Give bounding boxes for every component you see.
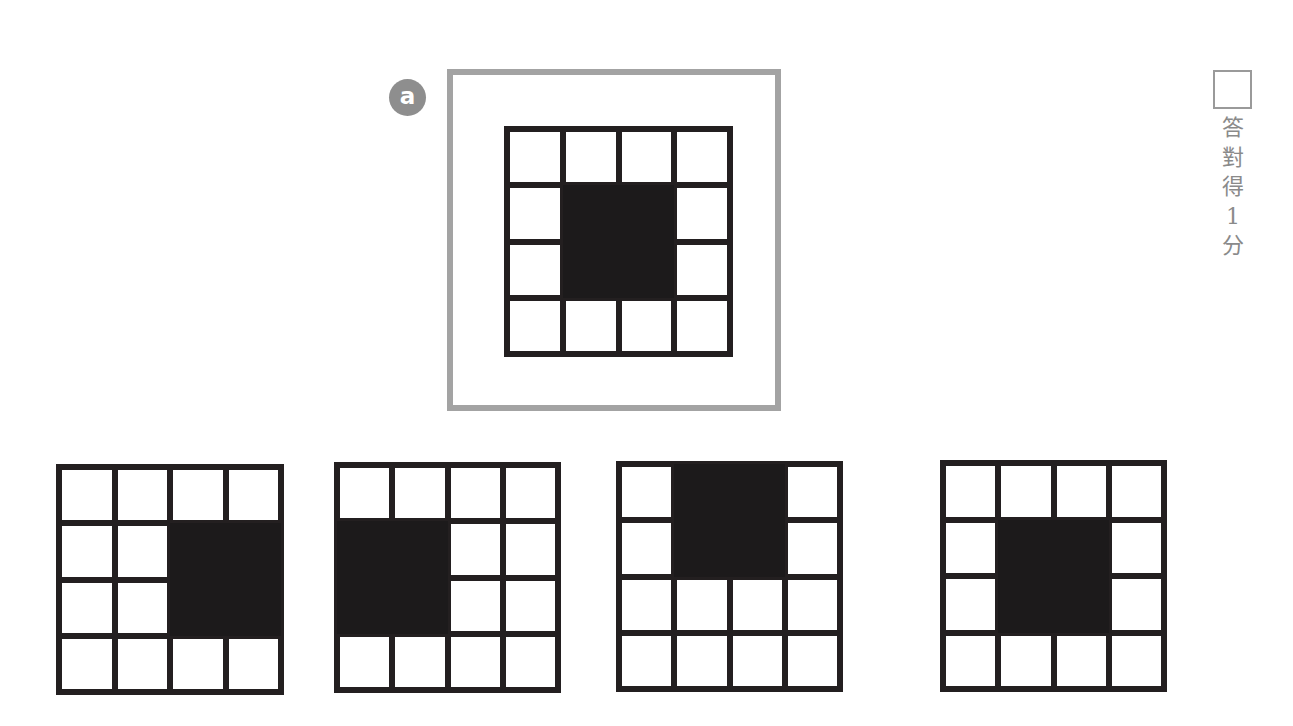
grid-cell-empty (451, 468, 500, 518)
grid-cell-empty (229, 639, 279, 689)
grid-cell-empty (622, 301, 672, 351)
grid-cell-filled (340, 581, 389, 631)
grid-cell-empty (946, 636, 995, 687)
grid-cell-empty (622, 523, 671, 573)
option-2-grid[interactable] (334, 462, 561, 693)
score-char-5: 分 (1222, 231, 1244, 261)
grid-cell-empty (622, 580, 671, 630)
grid-cell-filled (173, 583, 223, 633)
grid-cell-empty (1112, 523, 1161, 574)
grid-cell-filled (1057, 523, 1106, 574)
grid-cell-filled (622, 245, 672, 295)
grid-cell-empty (677, 245, 727, 295)
grid-cell-empty (677, 636, 726, 686)
grid-cell-empty (677, 580, 726, 630)
score-char-2: 對 (1222, 143, 1244, 173)
grid-cell-empty (506, 581, 555, 631)
grid-cell-empty (510, 188, 560, 238)
grid-cell-filled (677, 523, 726, 573)
grid-cell-empty (118, 583, 168, 633)
option-4-grid[interactable] (940, 460, 1167, 692)
grid-cell-filled (566, 245, 616, 295)
grid-cell-empty (340, 637, 389, 687)
grid-cell-empty (510, 301, 560, 351)
grid-cell-empty (622, 467, 671, 517)
grid-cell-filled (1001, 579, 1050, 630)
grid-cell-empty (946, 523, 995, 574)
grid-cell-empty (566, 132, 616, 182)
grid-cell-empty (788, 636, 837, 686)
score-char-4: 1 (1226, 202, 1240, 232)
grid-cell-empty (506, 524, 555, 574)
grid-cell-empty (506, 637, 555, 687)
grid-cell-empty (451, 524, 500, 574)
grid-cell-empty (622, 132, 672, 182)
grid-cell-empty (118, 526, 168, 576)
grid-cell-empty (1112, 579, 1161, 630)
grid-cell-filled (566, 188, 616, 238)
grid-cell-empty (677, 188, 727, 238)
grid-cell-filled (622, 188, 672, 238)
grid-cell-filled (1057, 579, 1106, 630)
grid-cell-empty (1112, 466, 1161, 517)
answer-checkbox[interactable] (1213, 70, 1252, 109)
grid-cell-filled (733, 467, 782, 517)
grid-cell-empty (1057, 636, 1106, 687)
score-char-1: 答 (1222, 113, 1244, 143)
grid-cell-empty (1057, 466, 1106, 517)
grid-cell-empty (677, 132, 727, 182)
grid-cell-empty (677, 301, 727, 351)
grid-cell-empty (1001, 636, 1050, 687)
stem-grid (504, 126, 733, 357)
grid-cell-filled (229, 526, 279, 576)
option-1-grid[interactable] (56, 464, 284, 695)
grid-cell-empty (340, 468, 389, 518)
grid-cell-empty (451, 581, 500, 631)
grid-cell-empty (395, 468, 444, 518)
grid-cell-empty (788, 467, 837, 517)
option-3-grid[interactable] (616, 461, 843, 692)
grid-cell-filled (395, 524, 444, 574)
grid-cell-empty (118, 470, 168, 520)
grid-cell-empty (733, 636, 782, 686)
grid-cell-empty (62, 639, 112, 689)
grid-cell-filled (229, 583, 279, 633)
grid-cell-filled (340, 524, 389, 574)
score-char-3: 得 (1222, 172, 1244, 202)
grid-cell-empty (1001, 466, 1050, 517)
grid-cell-filled (173, 526, 223, 576)
grid-cell-empty (788, 580, 837, 630)
grid-cell-empty (229, 470, 279, 520)
score-label: 答 對 得 1 分 (1218, 113, 1248, 261)
grid-cell-empty (510, 132, 560, 182)
grid-cell-empty (566, 301, 616, 351)
grid-cell-empty (62, 470, 112, 520)
grid-cell-empty (1112, 636, 1161, 687)
grid-cell-filled (677, 467, 726, 517)
grid-cell-empty (62, 583, 112, 633)
grid-cell-empty (733, 580, 782, 630)
question-badge: a (389, 79, 426, 116)
grid-cell-empty (510, 245, 560, 295)
grid-cell-empty (62, 526, 112, 576)
grid-cell-empty (173, 639, 223, 689)
grid-cell-empty (622, 636, 671, 686)
grid-cell-empty (946, 466, 995, 517)
grid-cell-empty (395, 637, 444, 687)
grid-cell-filled (1001, 523, 1050, 574)
grid-cell-empty (946, 579, 995, 630)
grid-cell-empty (451, 637, 500, 687)
grid-cell-filled (733, 523, 782, 573)
grid-cell-filled (395, 581, 444, 631)
grid-cell-empty (173, 470, 223, 520)
grid-cell-empty (506, 468, 555, 518)
grid-cell-empty (788, 523, 837, 573)
grid-cell-empty (118, 639, 168, 689)
